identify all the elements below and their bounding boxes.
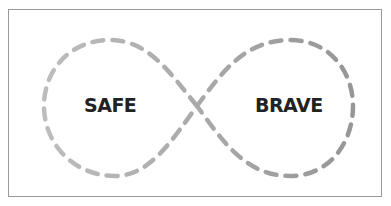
brave-label: BRAVE (255, 94, 323, 116)
safe-label: SAFE (84, 94, 136, 116)
infinity-loop-diagram (0, 0, 391, 206)
